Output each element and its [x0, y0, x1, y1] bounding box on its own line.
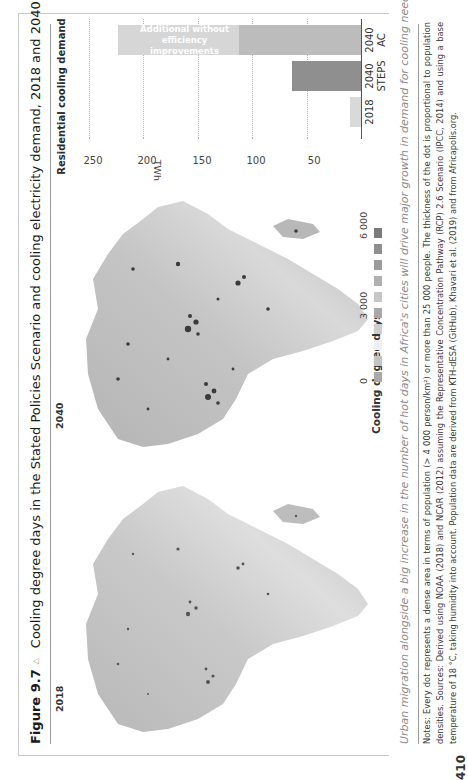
triangle-icon: △	[31, 658, 40, 664]
legend-swatch-1	[374, 356, 382, 366]
legend-swatch-6	[374, 276, 382, 286]
legend-tick-0: 0	[358, 378, 369, 384]
africa-map-2018	[58, 464, 378, 754]
x-label-1: 2040 STEPS	[364, 55, 388, 97]
figure-caption: Urban migration alongside a big increase…	[398, 0, 411, 744]
gridline-250	[89, 19, 90, 139]
x-axis-baseline	[361, 19, 362, 139]
notes-divider	[418, 24, 419, 744]
africa-map-2040	[58, 179, 378, 469]
y-tick-250: 250	[73, 155, 103, 166]
page-number: 410	[454, 755, 468, 780]
y-tick-50: 50	[290, 155, 320, 166]
legend-swatch-7	[374, 260, 382, 270]
figure-notes: Notes: Every dot represents a dense area…	[421, 22, 460, 744]
y-tick-150: 150	[181, 155, 211, 166]
bar-ac-2	[239, 25, 361, 55]
legend-swatch-5	[374, 292, 382, 302]
residential-cooling-chart: Residential cooling demand TWh 501001502…	[52, 14, 372, 179]
legend-swatch-8	[374, 244, 382, 254]
madagascar-2040	[273, 219, 320, 239]
africa-landmass-2040	[86, 201, 368, 447]
x-label-2: 2040 AC	[364, 19, 388, 61]
legend-swatch-4	[374, 308, 382, 318]
bar-steps-1	[292, 61, 361, 91]
legend-tick-6000: 6 000	[358, 212, 369, 239]
legend-swatch-2	[374, 340, 382, 350]
x-label-0: 2018	[364, 91, 376, 133]
bar-annotation: Additional without efficiency improvemen…	[135, 24, 233, 57]
figure-title-row: Figure 9.7 △ Cooling degree days in the …	[24, 1, 46, 744]
madagascar-2018	[273, 504, 320, 524]
figure-number: Figure 9.7	[28, 669, 43, 744]
legend-swatch-9	[374, 228, 382, 238]
africa-landmass-2018	[86, 486, 368, 732]
figure-title: Cooling degree days in the Stated Polici…	[28, 1, 43, 648]
legend-swatch-3	[374, 324, 382, 334]
title-divider	[50, 24, 51, 744]
legend-tick-3000: 3 000	[358, 292, 369, 319]
y-tick-100: 100	[236, 155, 266, 166]
legend-swatch-0	[374, 372, 382, 382]
y-tick-200: 200	[127, 155, 157, 166]
bar-residential-cooling-demand-0	[350, 97, 361, 127]
chart-title: Residential cooling demand	[55, 14, 68, 179]
